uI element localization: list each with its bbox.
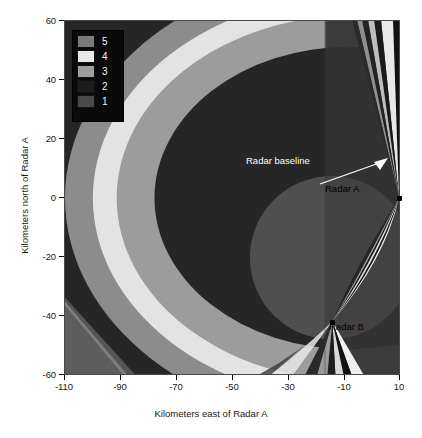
chart-root: 5 4 3 2 1 Radar baseline [0, 0, 422, 438]
legend-label: 3 [102, 67, 108, 77]
legend-row: 4 [77, 49, 119, 64]
x-tick [399, 375, 400, 380]
y-tick-label: 40 [19, 74, 56, 85]
x-tick [120, 375, 121, 380]
marker-radar-a [397, 196, 402, 201]
legend-label: 4 [102, 52, 108, 62]
y-tick-label: -60 [19, 369, 56, 380]
y-tick [59, 374, 64, 375]
y-tick-label: 60 [19, 15, 56, 26]
legend-row: 2 [77, 79, 119, 94]
legend-row: 3 [77, 64, 119, 79]
annotation-radar-a: Radar A [325, 183, 359, 194]
legend-row: 1 [77, 94, 119, 109]
y-tick [59, 79, 64, 80]
annotation-radar-baseline: Radar baseline [246, 155, 310, 166]
x-tick-label: -90 [98, 381, 142, 392]
x-tick [176, 375, 177, 380]
x-tick-label: -30 [266, 381, 310, 392]
y-axis-title: Kilometers north of Radar A [19, 96, 30, 296]
slab-seam [324, 21, 325, 374]
y-tick [59, 197, 64, 198]
x-tick-label: -10 [322, 381, 366, 392]
x-tick-label: -50 [210, 381, 254, 392]
y-tick [59, 256, 64, 257]
legend-label: 2 [102, 82, 108, 92]
legend-inner: 5 4 3 2 1 [77, 34, 119, 118]
x-axis-title: Kilometers east of Radar A [0, 408, 422, 419]
x-tick-label: -110 [42, 381, 86, 392]
legend-swatch [77, 65, 95, 78]
y-tick [59, 315, 64, 316]
x-tick-label: 10 [377, 381, 421, 392]
x-tick [232, 375, 233, 380]
y-tick [59, 20, 64, 21]
y-tick [59, 138, 64, 139]
marker-radar-b [330, 320, 335, 325]
legend-swatch [77, 95, 95, 108]
legend-swatch [77, 50, 95, 63]
legend-label: 1 [102, 97, 108, 107]
y-tick-label: -40 [19, 310, 56, 321]
x-tick [64, 375, 65, 380]
legend-label: 5 [102, 37, 108, 47]
legend-swatch [77, 80, 95, 93]
legend: 5 4 3 2 1 [72, 30, 124, 122]
legend-swatch [77, 35, 95, 48]
x-tick-label: -70 [154, 381, 198, 392]
legend-row: 5 [77, 34, 119, 49]
x-tick [344, 375, 345, 380]
x-tick [288, 375, 289, 380]
